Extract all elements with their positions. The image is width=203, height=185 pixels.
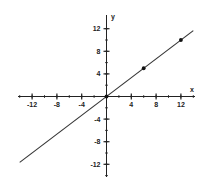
x-tick-label: -12	[27, 101, 37, 108]
y-tick-label: -8	[94, 138, 100, 145]
y-tick-label: -12	[90, 161, 100, 168]
data-point	[179, 38, 183, 42]
x-tick-label: 8	[154, 101, 158, 108]
data-point	[105, 95, 109, 99]
x-tick-label: -8	[54, 101, 60, 108]
data-point	[142, 66, 146, 70]
x-tick-label: 12	[177, 101, 185, 108]
y-axis-label: y	[111, 13, 115, 21]
y-tick-label: 12	[93, 25, 101, 32]
coordinate-plane: x y -12-8-448121284-4-8-12	[0, 0, 203, 185]
y-tick-label: 8	[97, 48, 101, 55]
y-tick-label: 4	[97, 70, 101, 77]
x-tick-label: 4	[129, 101, 133, 108]
x-axis-label: x	[190, 86, 194, 93]
x-tick-label: -4	[79, 101, 85, 108]
y-tick-label: -4	[94, 116, 100, 123]
